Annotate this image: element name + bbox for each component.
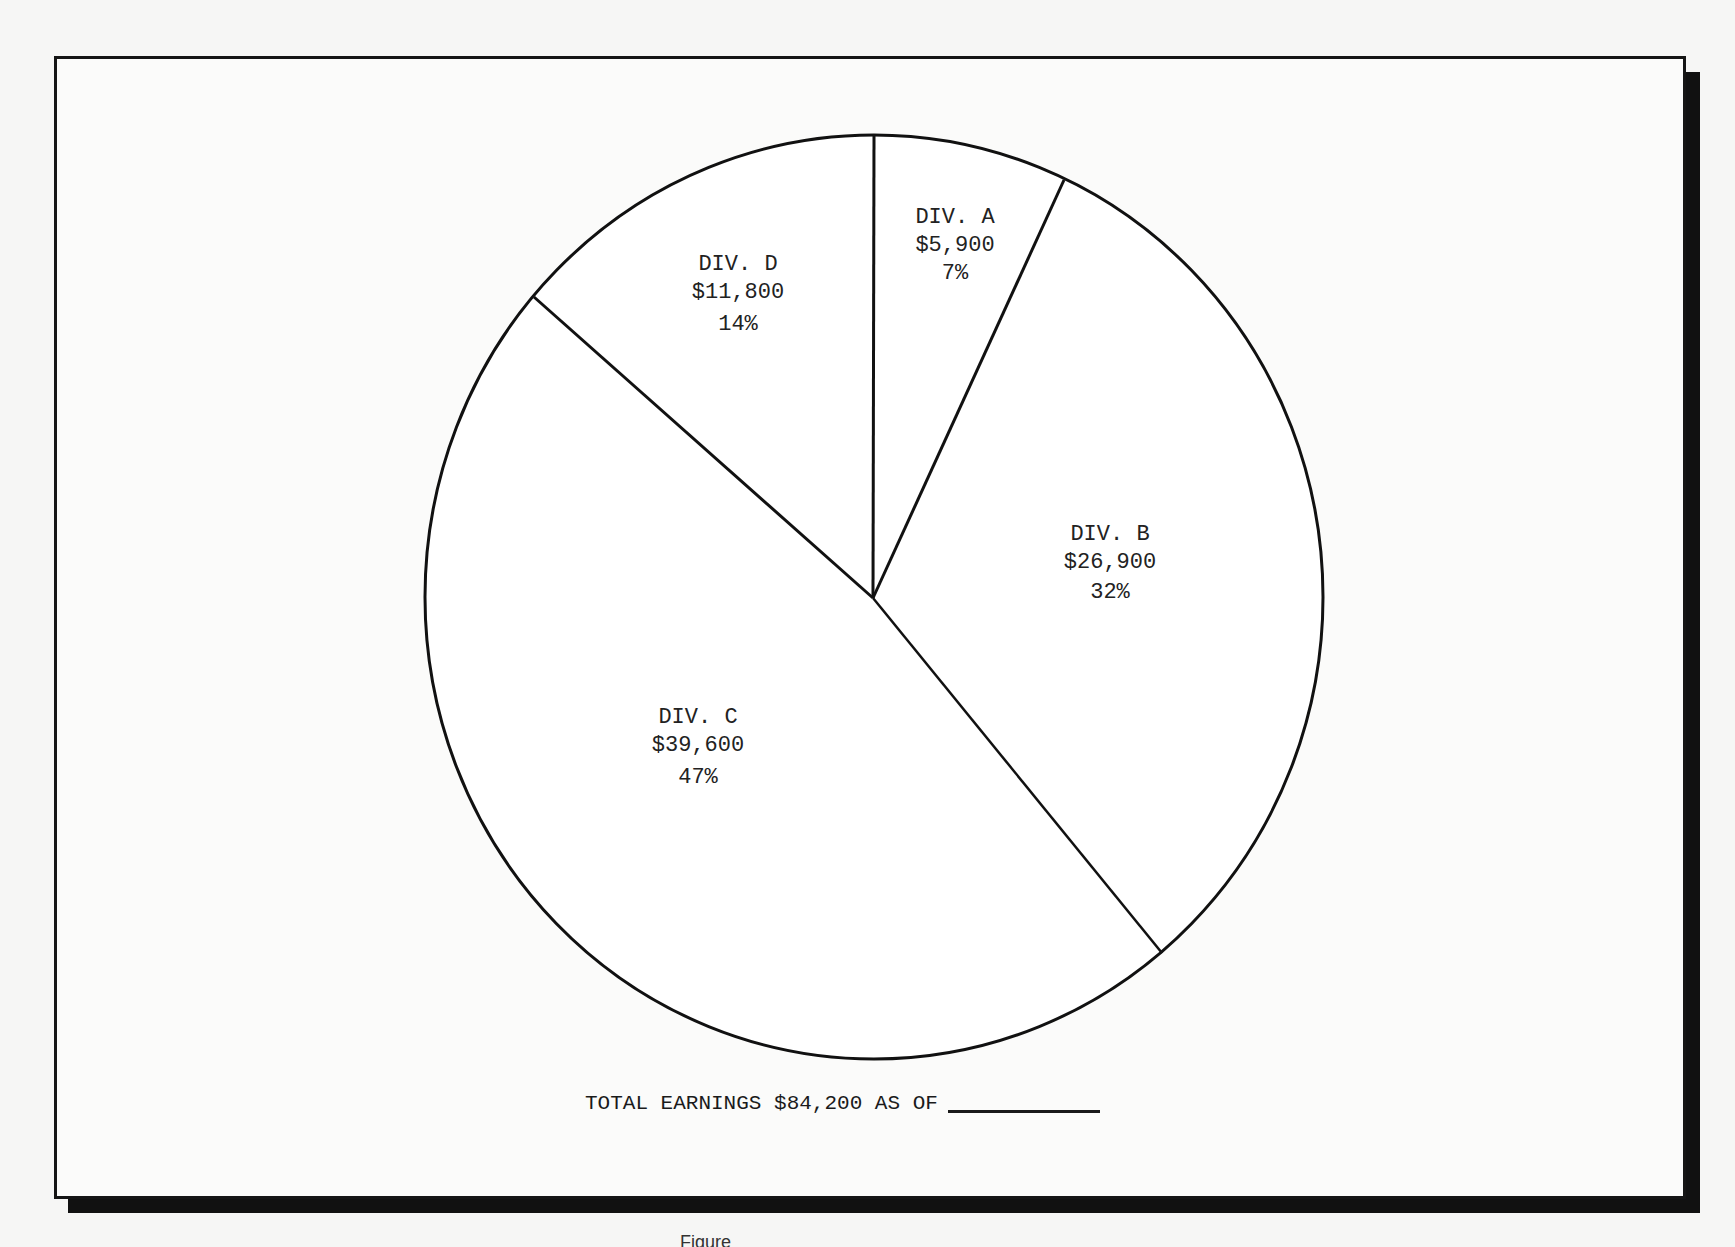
slice-label-div-a: DIV. A $5,900 7%: [915, 204, 994, 288]
slice-name: DIV. A: [915, 204, 994, 232]
slice-label-div-b: DIV. B $26,900 32%: [1064, 521, 1156, 607]
figure-caption: Figure: [680, 1232, 731, 1247]
slice-percent: 32%: [1064, 579, 1156, 607]
slice-label-div-c: DIV. C $39,600 47%: [652, 704, 744, 792]
slice-amount: $11,800: [692, 279, 784, 307]
slice-percent: 47%: [652, 764, 744, 792]
slice-boundary-d-a: [873, 135, 874, 598]
slice-amount: $26,900: [1064, 549, 1156, 577]
slice-label-div-d: DIV. D $11,800 14%: [692, 251, 784, 339]
pie-chart: [0, 0, 1735, 1247]
slice-name: DIV. B: [1064, 521, 1156, 549]
slice-amount: $39,600: [652, 732, 744, 760]
slice-amount: $5,900: [915, 232, 994, 260]
total-earnings-label: TOTAL EARNINGS $84,200 AS OF: [585, 1092, 938, 1115]
slice-name: DIV. C: [652, 704, 744, 732]
slice-percent: 14%: [692, 311, 784, 339]
slice-name: DIV. D: [692, 251, 784, 279]
slice-percent: 7%: [915, 260, 994, 288]
total-earnings-line: TOTAL EARNINGS $84,200 AS OF: [585, 1092, 1100, 1115]
date-blank-line: [948, 1110, 1100, 1113]
